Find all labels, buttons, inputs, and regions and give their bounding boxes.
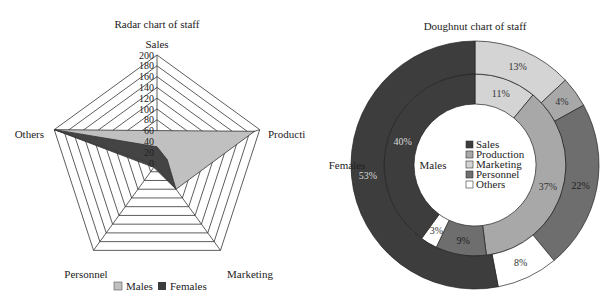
- segment-percent-label: 3%: [430, 225, 443, 236]
- segment-percent-label: 11%: [492, 88, 510, 99]
- radar-chart-title: Radar chart of staff: [114, 18, 199, 30]
- segment-percent-label: 4%: [555, 96, 568, 107]
- males-swatch-icon: [114, 282, 122, 290]
- females-swatch-icon: [158, 282, 166, 290]
- legend-item-others[interactable]: Others: [466, 178, 505, 190]
- legend-item-males[interactable]: Males: [114, 280, 153, 292]
- radar-chart-panel: Radar chart of staff 0204060801001201401…: [0, 0, 305, 304]
- radar-tick-label: 0: [149, 158, 154, 169]
- radar-tick-label: 160: [139, 71, 154, 82]
- segment-percent-label: 9%: [456, 235, 469, 246]
- radar-tick-label: 180: [139, 60, 154, 71]
- ring-label-males: Males: [420, 159, 447, 171]
- radar-tick-label: 200: [139, 50, 154, 61]
- radar-legend: Males Females: [114, 280, 207, 292]
- segment-percent-label: 40%: [394, 136, 412, 147]
- radar-tick-label: 100: [139, 104, 154, 115]
- segment-percent-label: 37%: [539, 181, 557, 192]
- legend-label-females: Females: [170, 280, 207, 292]
- radar-tick-label: 60: [144, 125, 154, 136]
- legend-item-females[interactable]: Females: [158, 280, 207, 292]
- ring-label-females: Females: [329, 159, 366, 171]
- marketing-swatch-icon: [466, 161, 473, 168]
- radar-tick-label: 80: [144, 114, 154, 125]
- axis-label-personnel: Personnel: [64, 268, 107, 280]
- legend-label-males: Males: [126, 280, 153, 292]
- segment-percent-label: 8%: [514, 257, 527, 268]
- radar-tick-label: 20: [144, 147, 154, 158]
- production-swatch-icon: [466, 151, 473, 158]
- personnel-swatch-icon: [466, 171, 473, 178]
- doughnut-rings: 11%37%9%3%40%13%4%22%8%53%: [351, 41, 599, 289]
- doughnut-chart-title: Doughnut chart of staff: [424, 20, 527, 32]
- segment-percent-label: 22%: [571, 180, 589, 191]
- others-swatch-icon: [466, 181, 473, 188]
- radar-tick-label: 120: [139, 93, 154, 104]
- radar-tick-label: 40: [144, 136, 154, 147]
- axis-label-sales: Sales: [145, 38, 168, 50]
- doughnut-legend: Sales Production Marketing Personnel Oth…: [466, 138, 525, 190]
- doughnut-chart: Doughnut chart of staff 11%37%9%3%40%13%…: [305, 0, 610, 304]
- legend-label-others: Others: [476, 178, 505, 190]
- segment-percent-label: 13%: [509, 61, 527, 72]
- radar-tick-label: 140: [139, 82, 154, 93]
- doughnut-chart-panel: Doughnut chart of staff 11%37%9%3%40%13%…: [305, 0, 610, 304]
- segment-percent-label: 53%: [359, 170, 377, 181]
- axis-label-marketing: Marketing: [227, 268, 273, 280]
- radar-chart: Radar chart of staff 0204060801001201401…: [0, 0, 305, 304]
- axis-label-production: Production: [268, 128, 305, 140]
- axis-label-others: Others: [15, 128, 44, 140]
- sales-swatch-icon: [466, 141, 473, 148]
